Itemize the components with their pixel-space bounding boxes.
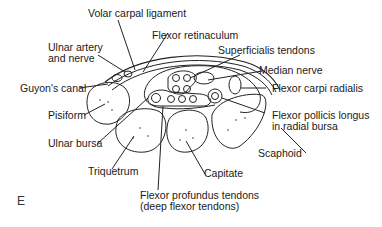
label-superficialis-tendons: Superficialis tendons xyxy=(218,45,315,56)
label-volar-carpal-ligament: Volar carpal ligament xyxy=(88,8,186,19)
label-flexor-carpi-radialis: Flexor carpi radialis xyxy=(272,83,363,94)
wrist-cross-section-figure: Volar carpal ligament Flexor retinaculum… xyxy=(0,0,382,227)
label-guyons-canal: Guyon's canal xyxy=(20,83,86,94)
label-ulnar-artery-nerve-line2: and nerve xyxy=(48,53,95,64)
label-flexor-pollicis-longus-line2: in radial bursa xyxy=(272,121,338,132)
panel-letter: E xyxy=(17,194,25,208)
label-flexor-profundus-line2: (deep flexor tendons) xyxy=(140,201,239,212)
label-pisiform: Pisiform xyxy=(48,110,86,121)
label-scaphoid: Scaphoid xyxy=(258,148,302,159)
label-capitate: Capitate xyxy=(204,168,243,179)
label-ulnar-bursa: Ulnar bursa xyxy=(48,138,102,149)
label-median-nerve: Median nerve xyxy=(259,65,323,76)
label-triquetrum: Triquetrum xyxy=(88,166,138,177)
label-flexor-retinaculum: Flexor retinaculum xyxy=(152,30,238,41)
